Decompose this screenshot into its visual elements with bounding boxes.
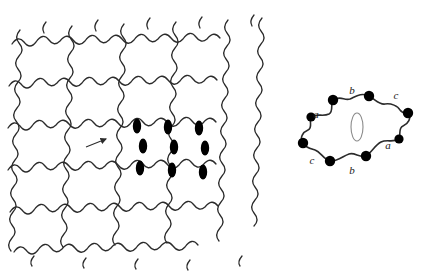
lattice-marker xyxy=(168,163,176,178)
macrocycle-node xyxy=(361,151,371,161)
edge-label-a-top-left: a xyxy=(313,108,319,120)
diagram-canvas: a b c a b c xyxy=(0,0,431,274)
lattice-marker xyxy=(199,165,207,180)
lattice-marker xyxy=(195,121,203,136)
lattice-marker xyxy=(170,140,178,155)
lattice-marker xyxy=(164,120,172,135)
macrocycle-node xyxy=(325,156,335,166)
macrocycle-node xyxy=(394,134,403,143)
lattice-marker xyxy=(139,139,147,154)
lattice-marker xyxy=(136,161,144,176)
edge-label-b-top: b xyxy=(349,84,355,96)
edge-label-a-bottom-right: a xyxy=(385,139,391,151)
lattice-marker xyxy=(133,119,141,134)
edge-label-b-bottom: b xyxy=(349,164,355,176)
macrocycle-node xyxy=(298,138,308,148)
edge-label-c-bottom-left: c xyxy=(310,154,315,166)
macrocycle-node xyxy=(364,91,374,101)
edge-label-c-top-right: c xyxy=(394,89,399,101)
lattice-marker xyxy=(201,141,209,156)
macrocycle-node xyxy=(403,108,413,118)
figure-root: a b c a b c xyxy=(0,0,431,274)
macrocycle-node xyxy=(328,95,338,105)
